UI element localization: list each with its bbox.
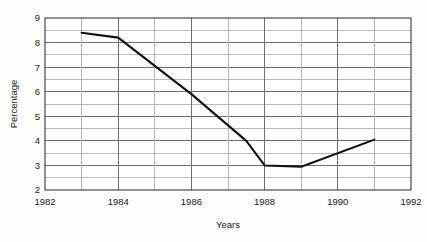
- x-tick-label: 1986: [181, 196, 202, 207]
- x-tick-label: 1984: [108, 196, 129, 207]
- x-tick-label: 1988: [254, 196, 275, 207]
- y-tick-label: 3: [35, 160, 40, 171]
- x-axis-title: Years: [216, 219, 240, 230]
- y-axis-title: Percentage: [8, 80, 19, 129]
- x-tick-label: 1982: [34, 196, 55, 207]
- y-tick-label: 7: [35, 62, 40, 73]
- y-tick-label: 2: [35, 184, 40, 195]
- y-tick-label: 9: [35, 12, 40, 23]
- x-tick-label: 1992: [400, 196, 421, 207]
- y-tick-label: 5: [35, 111, 40, 122]
- line-chart-figure: 23456789 198219841986198819901992 Percen…: [0, 0, 427, 242]
- y-tick-label: 6: [35, 86, 40, 97]
- chart-canvas: 23456789 198219841986198819901992 Percen…: [0, 0, 427, 242]
- y-tick-label: 8: [35, 37, 40, 48]
- y-tick-label: 4: [35, 135, 40, 146]
- x-tick-label: 1990: [327, 196, 348, 207]
